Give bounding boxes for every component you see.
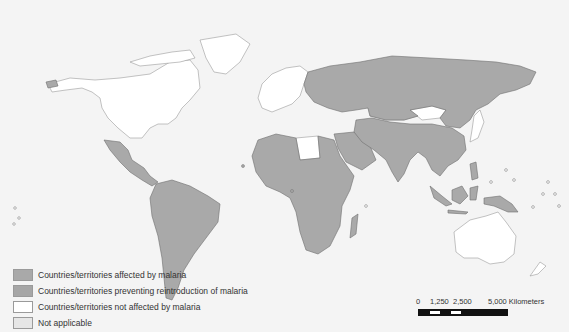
- new-guinea: [484, 196, 518, 212]
- legend-swatch: [13, 301, 33, 313]
- legend-swatch: [13, 317, 33, 329]
- greenland: [200, 34, 250, 74]
- legend-swatch: [13, 269, 33, 281]
- legend: Countries/territories affected by malari…: [13, 267, 248, 331]
- scale-label-0: 0: [416, 297, 420, 306]
- legend-item-affected: Countries/territories affected by malari…: [13, 267, 248, 282]
- borneo: [452, 186, 468, 204]
- madagascar: [350, 214, 358, 238]
- java: [448, 210, 468, 214]
- scale-bar: 0 1,250 2,500 5,000 Kilometers: [418, 297, 568, 316]
- legend-label: Countries/territories affected by malari…: [38, 270, 186, 280]
- legend-swatch: [13, 285, 33, 297]
- legend-item-not-applicable: Not applicable: [13, 315, 248, 330]
- europe: [258, 66, 308, 112]
- scale-label-5000: 5,000 Kilometers: [488, 297, 544, 306]
- scale-label-1250: 1,250: [430, 297, 449, 306]
- legend-label: Not applicable: [38, 318, 92, 328]
- legend-item-not-affected: Countries/territories not affected by ma…: [13, 299, 248, 314]
- sulawesi: [470, 186, 478, 200]
- mexico-central-america: [104, 140, 158, 186]
- scale-label-2500: 2,500: [453, 297, 472, 306]
- indonesia: [430, 186, 452, 206]
- australia: [454, 212, 516, 264]
- legend-label: Countries/territories preventing reintro…: [38, 286, 248, 296]
- legend-label: Countries/territories not affected by ma…: [38, 302, 200, 312]
- legend-item-preventing-reintroduction: Countries/territories preventing reintro…: [13, 283, 248, 298]
- new-zealand: [530, 262, 546, 276]
- philippines: [470, 162, 478, 180]
- scale-bar-graphic: [418, 309, 508, 316]
- north-america: [48, 60, 200, 138]
